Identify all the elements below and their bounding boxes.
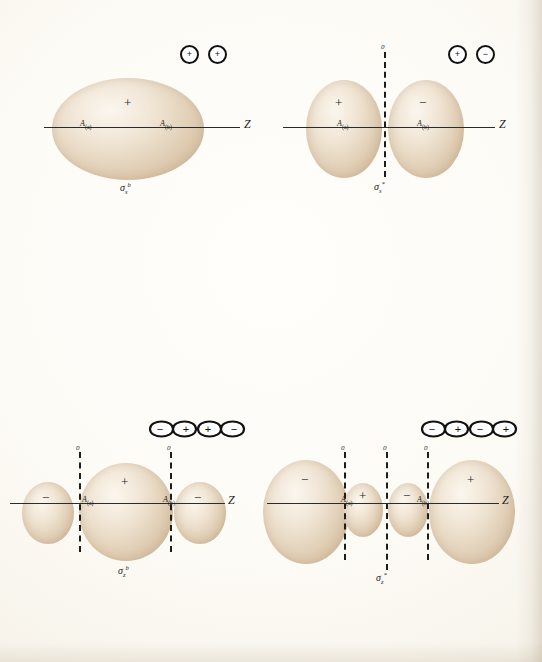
z-axis-line <box>44 127 240 128</box>
panel-sigma-s-antibonding: + − + − 0 Z A(a) A(b) σs* <box>271 0 542 205</box>
nucleus-b-label: A(b) <box>160 120 172 130</box>
panel-pi-x-antibonding: + − − + + − − + 0 X X 0 Z A(a) <box>271 390 542 662</box>
s-orbital-icon: + <box>180 45 199 64</box>
nodal-plane-line <box>384 52 386 177</box>
s-orbital-icon: + <box>448 45 467 64</box>
z-axis-label: Z <box>244 118 251 130</box>
orbital-symbol-label: σs* <box>374 181 385 195</box>
panel-pi-x-bonding: + − + − + − X X 0 Z A(a) A(b) πx <box>0 390 271 662</box>
lobe-sign-plus: + <box>124 96 131 109</box>
z-axis-label: Z <box>499 118 506 130</box>
s-orbital-icon: − <box>476 45 495 64</box>
panel-sigma-z-antibonding: − + − + − + − + 0 0 0 Z A(a) A(b) σz* <box>271 205 542 390</box>
panel-sigma-z-bonding: − + + − − + − 0 0 Z A(a) A(b) σzb <box>0 205 271 390</box>
lobe-sign-plus: + <box>335 96 342 109</box>
nucleus-a-label: A(a) <box>337 120 349 130</box>
nodal-plane-label: 0 <box>381 44 385 51</box>
nucleus-a-label: A(a) <box>80 120 92 130</box>
s-orbital-icon: + <box>208 45 227 64</box>
orbital-lobe <box>52 78 204 180</box>
lobe-sign-minus: − <box>419 96 426 109</box>
z-axis-line <box>283 127 495 128</box>
figure-grid: + + + Z A(a) A(b) σsb + − + − 0 Z <box>0 0 542 662</box>
panel-sigma-s-bonding: + + + Z A(a) A(b) σsb <box>0 0 271 205</box>
orbital-symbol-label: σsb <box>120 182 131 196</box>
nucleus-b-label: A(b) <box>417 120 429 130</box>
